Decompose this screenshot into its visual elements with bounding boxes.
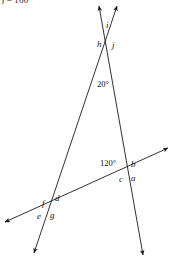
angle-label-j: j bbox=[112, 41, 115, 50]
angle-label-e: e bbox=[37, 212, 41, 221]
geometry-diagram-page: ) = 160° 20° 120° a b c d e f g h i j bbox=[0, 0, 173, 262]
angle-label-f: f bbox=[42, 199, 45, 208]
angle-label-i: i bbox=[106, 21, 109, 30]
angle-label-d: d bbox=[55, 194, 60, 203]
figure-canvas bbox=[0, 0, 173, 262]
angle-measure-120: 120° bbox=[100, 159, 116, 168]
angle-label-c: c bbox=[119, 175, 123, 184]
angle-label-h: h bbox=[97, 40, 102, 49]
angle-label-g: g bbox=[50, 211, 55, 220]
angle-label-b: b bbox=[131, 160, 136, 169]
line-transversal bbox=[5, 148, 168, 222]
angle-measure-20: 20° bbox=[97, 80, 109, 89]
line-left-slanted bbox=[34, 6, 117, 253]
line-right-slanted bbox=[99, 6, 143, 255]
angle-label-a: a bbox=[131, 174, 136, 183]
